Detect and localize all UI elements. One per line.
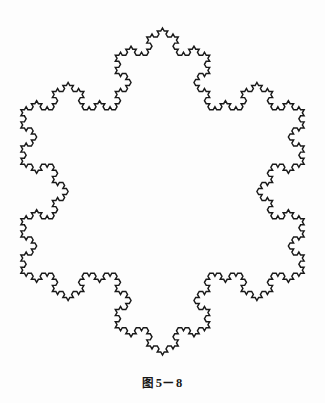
figure-page: 图5－8 xyxy=(0,0,325,403)
figure-caption: 图5－8 xyxy=(0,372,325,391)
fractal-stage xyxy=(0,0,325,368)
koch-snowflake-path xyxy=(21,28,304,355)
caption-number: 5－8 xyxy=(156,372,183,391)
koch-snowflake-figure xyxy=(0,0,325,368)
caption-label-glyph: 图 xyxy=(142,374,154,390)
